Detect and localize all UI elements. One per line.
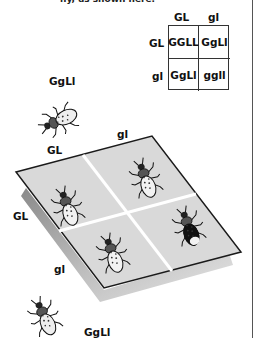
cross-illustration <box>0 0 258 352</box>
beetle-icon-parent-top <box>34 99 83 143</box>
beetle-icon-parent-bottom <box>22 292 66 341</box>
plane-col-label-1: GL <box>47 145 62 156</box>
plane-row-label-1: GL <box>13 211 28 222</box>
parent-bottom-genotype: GgLl <box>84 327 110 338</box>
plane-col-label-2: gl <box>117 129 128 140</box>
parent-top-genotype: GgLl <box>49 76 75 87</box>
plane-row-label-2: gl <box>54 264 65 275</box>
dihybrid-cross-diagram: ny, as shown here. GL gl GL gl GGLL GgLl… <box>0 0 258 352</box>
